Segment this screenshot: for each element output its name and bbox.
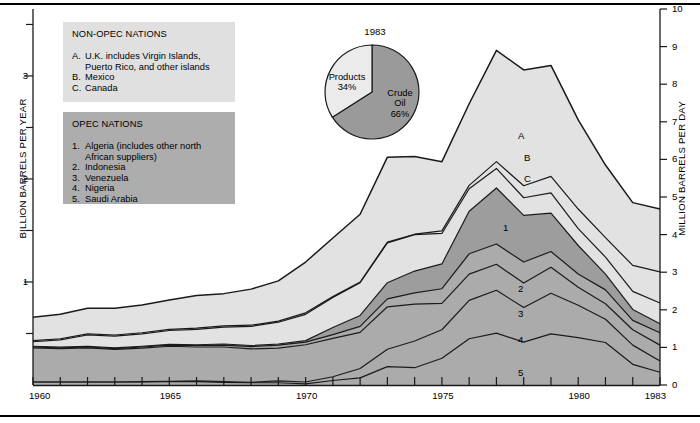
y-axis-right-tick-label-6: 6 <box>672 153 688 164</box>
legend-non-opec-title: NON-OPEC NATIONS <box>72 29 226 39</box>
legend-marker: 3. <box>72 173 85 184</box>
pie-label-crude-oil: Crude Oil 66% <box>372 88 428 119</box>
pie-chart: 1983 Products 34% Crude Oil 66% <box>310 26 440 144</box>
legend-item: 3.Venezuela <box>72 173 226 184</box>
y-axis-right-tick-label-2: 2 <box>672 304 688 315</box>
x-axis-tick-label-1970: 1970 <box>289 390 325 401</box>
band-label-A: A <box>518 130 524 141</box>
legend-text: Saudi Arabia <box>85 194 138 204</box>
y-axis-right-tick-label-10: 10 <box>672 3 688 14</box>
legend-marker: 2. <box>72 162 85 173</box>
legend-marker: A. <box>72 51 85 62</box>
band-label-C: C <box>524 173 531 184</box>
legend-item: 4.Nigeria <box>72 183 226 194</box>
legend-marker: B. <box>72 72 85 83</box>
y-axis-left-tick-label-3: 3 <box>6 70 28 81</box>
legend-marker: 4. <box>72 183 85 194</box>
y-axis-left-tick-label-2: 2 <box>6 173 28 184</box>
y-axis-right-tick-label-8: 8 <box>672 78 688 89</box>
x-axis-tick-label-1980: 1980 <box>561 390 597 401</box>
legend-marker: C. <box>72 83 85 94</box>
x-axis-tick-label-1965: 1965 <box>152 390 188 401</box>
legend-opec-title: OPEC NATIONS <box>72 119 226 129</box>
y-axis-left-title: BILLION BARRELS PER YEAR <box>17 94 28 244</box>
legend-text: Mexico <box>85 72 114 82</box>
legend-text: U.K. includes Virgin Islands, Puerto Ric… <box>85 51 210 72</box>
legend-non-opec: NON-OPEC NATIONS A.U.K. includes Virgin … <box>63 22 235 102</box>
x-axis-tick-label-1960: 1960 <box>29 390 65 401</box>
band-label-1: 1 <box>503 222 508 233</box>
y-axis-right-tick-label-9: 9 <box>672 41 688 52</box>
legend-text: Nigeria <box>85 183 114 193</box>
y-axis-right-tick-label-4: 4 <box>672 229 688 240</box>
legend-item: 2.Indonesia <box>72 162 226 173</box>
legend-text: Venezuela <box>85 173 128 183</box>
band-label-3: 3 <box>518 308 523 319</box>
band-label-4: 4 <box>518 334 523 345</box>
band-label-5: 5 <box>518 367 523 378</box>
y-axis-left-tick-label-1: 1 <box>6 276 28 287</box>
legend-opec: OPEC NATIONS 1.Algeria (includes other n… <box>63 112 235 204</box>
legend-item: B.Mexico <box>72 72 226 83</box>
legend-item: C.Canada <box>72 83 226 94</box>
y-axis-right-tick-label-7: 7 <box>672 116 688 127</box>
pie-title: 1983 <box>310 26 440 37</box>
legend-text: Algeria (includes other north African su… <box>85 141 201 162</box>
legend-item: 1.Algeria (includes other north African … <box>72 141 226 162</box>
legend-marker: 1. <box>72 141 85 152</box>
band-label-B: B <box>524 152 530 163</box>
y-axis-right-tick-label-1: 1 <box>672 341 688 352</box>
x-axis-tick-label-1975: 1975 <box>425 390 461 401</box>
x-axis-tick-label-1983: 1983 <box>630 390 666 401</box>
pie-label-products: Products 34% <box>316 72 378 93</box>
band-label-2: 2 <box>518 283 523 294</box>
legend-item: 5.Saudi Arabia <box>72 194 226 205</box>
legend-text: Canada <box>85 83 118 93</box>
legend-opec-list: 1.Algeria (includes other north African … <box>72 141 226 205</box>
chart-page: BILLION BARRELS PER YEAR MILLION BARRELS… <box>0 0 700 423</box>
legend-marker: 5. <box>72 194 85 205</box>
y-axis-right-tick-label-5: 5 <box>672 191 688 202</box>
y-axis-right-tick-label-3: 3 <box>672 266 688 277</box>
legend-text: Indonesia <box>85 162 125 172</box>
legend-item: A.U.K. includes Virgin Islands, Puerto R… <box>72 51 226 72</box>
legend-non-opec-list: A.U.K. includes Virgin Islands, Puerto R… <box>72 51 226 93</box>
y-axis-right-tick-label-0: 0 <box>672 379 688 390</box>
